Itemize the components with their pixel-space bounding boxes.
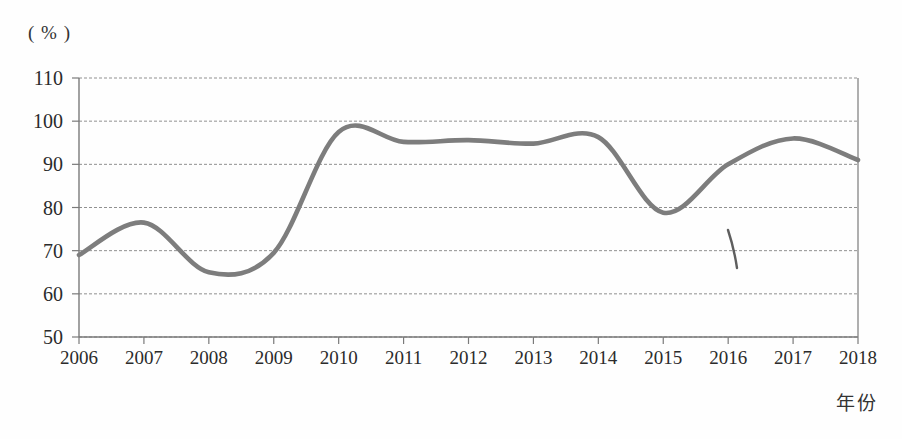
x-axis-label-2013: 2013 (498, 347, 568, 369)
x-axis-label-2011: 2011 (369, 347, 439, 369)
y-axis-label-90: 90 (11, 153, 63, 176)
x-axis-label-2010: 2010 (304, 347, 374, 369)
line-chart-figure: ( % ) 5060708090100110 20062007200820092… (0, 0, 902, 439)
y-axis-label-70: 70 (11, 239, 63, 262)
handwritten-annotation-group (728, 230, 737, 268)
chart-plot-area (0, 0, 902, 439)
x-axis-label-2017: 2017 (758, 347, 828, 369)
x-axis-label-2006: 2006 (44, 347, 114, 369)
x-axis-tick-marks (79, 337, 858, 344)
pen-stroke-mark (728, 230, 737, 268)
y-axis-label-80: 80 (11, 196, 63, 219)
x-axis-label-2018: 2018 (823, 347, 893, 369)
x-axis-label-2014: 2014 (563, 347, 633, 369)
x-axis-label-2012: 2012 (434, 347, 504, 369)
gridlines-group (79, 78, 858, 337)
x-axis-label-2008: 2008 (174, 347, 244, 369)
y-axis-tick-marks (72, 78, 79, 337)
x-axis-label-2009: 2009 (239, 347, 309, 369)
y-axis-label-60: 60 (11, 282, 63, 305)
x-axis-title: 年份 (836, 388, 878, 415)
y-axis-label-100: 100 (11, 110, 63, 133)
y-axis-label-110: 110 (11, 67, 63, 90)
y-axis-label-50: 50 (11, 326, 63, 349)
x-axis-label-2016: 2016 (693, 347, 763, 369)
data-series-line (79, 126, 858, 275)
x-axis-label-2015: 2015 (628, 347, 698, 369)
x-axis-label-2007: 2007 (109, 347, 179, 369)
